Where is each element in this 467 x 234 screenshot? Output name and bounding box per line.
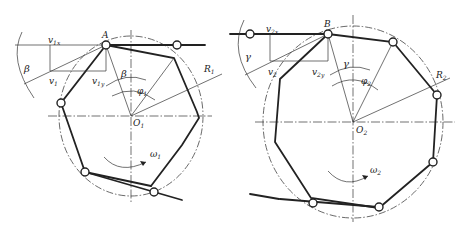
right-joint-right xyxy=(433,91,441,99)
right-label-O2: O2 xyxy=(356,125,367,136)
left-label-vy: v1y xyxy=(92,76,105,88)
right-label-omega2: ω2 xyxy=(370,165,381,176)
right-label-gamma-center: γ xyxy=(343,58,349,69)
left-joint-bottom-left xyxy=(81,168,89,176)
left-label-omega1: ω1 xyxy=(150,149,161,160)
right-joint-bottom-right xyxy=(375,203,383,211)
right-label-v2: v2 xyxy=(268,67,277,78)
left-omega-arrowhead xyxy=(140,161,146,166)
right-chain-bottom-strand xyxy=(250,194,279,199)
right-gamma-center-arc xyxy=(330,67,370,75)
right-sprocket: B v2x v2 v2y γ γ φ2 R2 O2 ω2 xyxy=(230,15,455,222)
left-label-phi1: φ1 xyxy=(137,86,147,97)
left-label-vx: v1x xyxy=(48,35,61,46)
left-joint-left xyxy=(57,99,65,107)
right-joint-top-right xyxy=(389,38,397,46)
right-joint-bottom-left xyxy=(309,199,317,207)
left-sprocket: A v1x v1 v1y β β φ1 R1 O1 ω1 xyxy=(15,30,222,202)
left-joint-A xyxy=(102,41,110,49)
right-label-phi2: φ2 xyxy=(361,76,371,87)
left-label-beta: β xyxy=(23,63,30,74)
left-polygon-left xyxy=(61,45,106,172)
left-radius-to-A xyxy=(106,45,131,116)
right-polygon-left xyxy=(275,34,379,208)
left-label-v1: v1 xyxy=(49,76,58,87)
left-joint-bottom-right xyxy=(150,188,158,196)
right-omega-arc xyxy=(328,171,368,182)
left-joint-top xyxy=(173,41,181,49)
left-omega-arc xyxy=(104,157,146,167)
right-label-R2: R2 xyxy=(435,70,447,81)
right-label-vx: v2x xyxy=(266,24,279,35)
right-radius-to-B xyxy=(328,34,353,122)
right-label-vy: v2y xyxy=(312,67,325,79)
right-label-gamma: γ xyxy=(245,51,251,62)
right-joint-B xyxy=(324,30,332,38)
left-label-A: A xyxy=(101,30,109,40)
left-label-R1: R1 xyxy=(203,64,215,75)
chain-drive-diagram: A v1x v1 v1y β β φ1 R1 O1 ω1 xyxy=(0,0,467,234)
right-omega-arrowhead xyxy=(362,175,368,180)
right-label-B: B xyxy=(323,19,331,29)
right-joint-lower-right xyxy=(429,158,437,166)
left-label-O1: O1 xyxy=(133,118,144,129)
right-joint-top-left xyxy=(246,30,254,38)
left-polygon-right xyxy=(106,45,199,186)
right-radius-to-joint xyxy=(353,42,393,122)
left-label-beta-center: β xyxy=(120,68,127,79)
